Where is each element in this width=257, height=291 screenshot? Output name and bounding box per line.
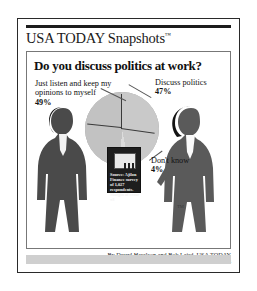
callout-left: Just listen and keep my opinions to myse… [35, 79, 127, 107]
callout-right-text: Discuss politics [155, 78, 207, 87]
callout-dont-know: Don't know 4% [151, 156, 195, 175]
source-note: Source: Ajilon Finance survey of 1,027 r… [110, 173, 140, 202]
brand-name: USA TODAY Snapshots [26, 30, 165, 46]
monitor-screen [114, 153, 136, 169]
callout-dont-know-text: Don't know [151, 156, 189, 165]
snapshot-infographic: USA TODAY Snapshots™ Do you discuss poli… [0, 0, 257, 291]
chart-panel: Do you discuss politics at work? [26, 51, 231, 249]
brand-title: USA TODAY Snapshots™ [26, 30, 232, 49]
tm-mark: TM [177, 204, 184, 209]
brand-divider [26, 25, 231, 28]
callout-right-pct: 47% [155, 87, 215, 96]
callout-dont-know-pct: 4% [151, 165, 195, 174]
footer-bar [26, 255, 231, 264]
monitor-graphic: Source: Ajilon Finance survey of 1,027 r… [107, 147, 141, 193]
snapshot-card: USA TODAY Snapshots™ Do you discuss poli… [17, 18, 240, 273]
screen-bars-icon [124, 163, 140, 172]
callout-left-pct: 49% [35, 98, 127, 107]
illustration-area: Source: Ajilon Finance survey of 1,027 r… [27, 52, 230, 248]
callout-right: Discuss politics 47% [155, 78, 215, 97]
trademark-icon: ™ [165, 32, 171, 38]
callout-left-text: Just listen and keep my opinions to myse… [35, 79, 111, 97]
